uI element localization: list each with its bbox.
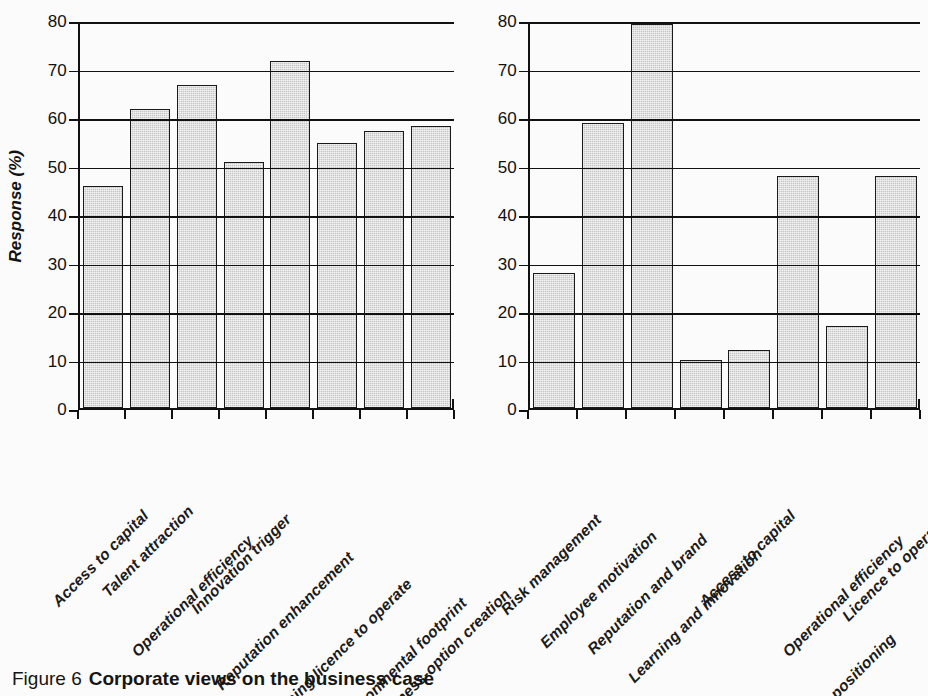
y-tick-label-20: 20 <box>48 303 67 323</box>
bar-slot <box>267 22 314 408</box>
bar[interactable] <box>177 85 217 408</box>
bar-group-right <box>530 22 920 408</box>
gridline-70 <box>528 71 920 73</box>
x-axis-category-label: Licence to operate <box>838 514 928 625</box>
bar-slot <box>871 22 920 408</box>
y-tick-label-80: 80 <box>48 12 67 32</box>
y-tick-label-20: 20 <box>498 303 517 323</box>
y-tick-label-10: 10 <box>498 352 517 372</box>
plot-area-left: 01020304050607080 <box>78 22 454 410</box>
y-tick-10 <box>69 362 78 364</box>
gridline-10 <box>528 362 920 364</box>
figure-root: Response (%) 01020304050607080 Access to… <box>0 0 928 696</box>
bar-slot <box>127 22 174 408</box>
bar-slot <box>80 22 127 408</box>
x-axis-category-label: Access to capital <box>695 507 798 610</box>
y-tick-label-0: 0 <box>507 400 517 420</box>
gridline-80 <box>528 22 920 24</box>
figure-caption-title: Corporate views on the business case <box>89 668 434 689</box>
bar-slot <box>174 22 221 408</box>
bar[interactable] <box>364 131 404 408</box>
bar[interactable] <box>224 162 264 408</box>
y-tick-70 <box>69 71 78 73</box>
gridline-30 <box>78 265 454 267</box>
y-tick-label-70: 70 <box>48 61 67 81</box>
bar-group-left <box>80 22 454 408</box>
y-tick-label-50: 50 <box>498 158 517 178</box>
gridline-10 <box>78 362 454 364</box>
y-tick-label-80: 80 <box>498 12 517 32</box>
gridline-40 <box>78 216 454 218</box>
chart-panel-right: 01020304050607080 Risk managementEmploye… <box>464 0 928 640</box>
bar[interactable] <box>875 176 917 408</box>
y-tick-10 <box>519 362 528 364</box>
bar-slot <box>676 22 725 408</box>
y-tick-label-40: 40 <box>498 206 517 226</box>
bar[interactable] <box>533 273 575 408</box>
gridline-30 <box>528 265 920 267</box>
bar-slot <box>823 22 872 408</box>
y-tick-40 <box>69 216 78 218</box>
y-tick-label-60: 60 <box>498 109 517 129</box>
x-axis-labels-left: Access to capitalTalent attractionOperat… <box>78 412 454 637</box>
y-tick-label-30: 30 <box>48 255 67 275</box>
figure-caption-number: Figure 6 <box>12 668 82 689</box>
gridline-70 <box>78 71 454 73</box>
figure-caption: Figure 6Corporate views on the business … <box>12 668 434 690</box>
y-tick-70 <box>519 71 528 73</box>
bar-slot <box>579 22 628 408</box>
y-tick-40 <box>519 216 528 218</box>
gridline-60 <box>528 119 920 121</box>
gridline-80 <box>78 22 454 24</box>
bar-slot <box>628 22 677 408</box>
bar[interactable] <box>317 143 357 408</box>
y-axis-title-left: Response (%) <box>6 150 26 262</box>
y-tick-label-30: 30 <box>498 255 517 275</box>
bar-slot <box>407 22 454 408</box>
y-tick-60 <box>69 119 78 121</box>
gridline-50 <box>528 168 920 170</box>
gridline-50 <box>78 168 454 170</box>
y-tick-label-60: 60 <box>48 109 67 129</box>
y-tick-80 <box>69 22 78 24</box>
y-tick-30 <box>69 265 78 267</box>
bar-slot <box>220 22 267 408</box>
bar-slot <box>530 22 579 408</box>
y-tick-label-10: 10 <box>48 352 67 372</box>
bar[interactable] <box>728 350 770 408</box>
gridline-40 <box>528 216 920 218</box>
y-tick-30 <box>519 265 528 267</box>
x-axis-labels-right: Risk managementEmployee motivationReputa… <box>528 412 920 637</box>
bar-slot <box>725 22 774 408</box>
y-tick-20 <box>69 313 78 315</box>
y-tick-label-50: 50 <box>48 158 67 178</box>
gridline-20 <box>528 313 920 315</box>
bar[interactable] <box>826 326 868 408</box>
y-tick-60 <box>519 119 528 121</box>
bar-slot <box>361 22 408 408</box>
y-tick-50 <box>69 168 78 170</box>
chart-panel-left: Response (%) 01020304050607080 Access to… <box>0 0 464 640</box>
bar[interactable] <box>270 61 310 408</box>
y-tick-label-40: 40 <box>48 206 67 226</box>
y-tick-label-70: 70 <box>498 61 517 81</box>
gridline-20 <box>78 313 454 315</box>
y-tick-80 <box>519 22 528 24</box>
x-axis-category-label: Innovation trigger <box>187 510 294 617</box>
plot-area-right: 01020304050607080 <box>528 22 920 410</box>
bar[interactable] <box>130 109 170 408</box>
gridline-60 <box>78 119 454 121</box>
y-tick-50 <box>519 168 528 170</box>
y-tick-label-0: 0 <box>57 400 67 420</box>
bar-slot <box>774 22 823 408</box>
bar[interactable] <box>680 360 722 408</box>
bar-slot <box>314 22 361 408</box>
bar[interactable] <box>83 186 123 408</box>
bar[interactable] <box>777 176 819 408</box>
y-tick-20 <box>519 313 528 315</box>
